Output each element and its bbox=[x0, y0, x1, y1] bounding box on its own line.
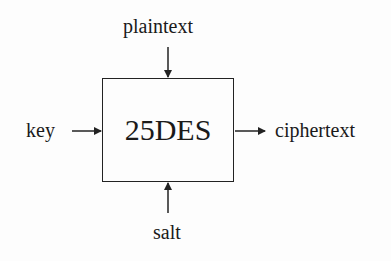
plaintext-label: plaintext bbox=[123, 16, 193, 36]
key-label: key bbox=[26, 120, 55, 140]
cipher-block-label: 25DES bbox=[103, 115, 233, 145]
diagram-canvas: plaintext key salt ciphertext 25DES bbox=[0, 0, 391, 261]
ciphertext-label: ciphertext bbox=[275, 120, 355, 140]
salt-label: salt bbox=[153, 222, 181, 242]
cipher-block: 25DES bbox=[102, 78, 234, 182]
